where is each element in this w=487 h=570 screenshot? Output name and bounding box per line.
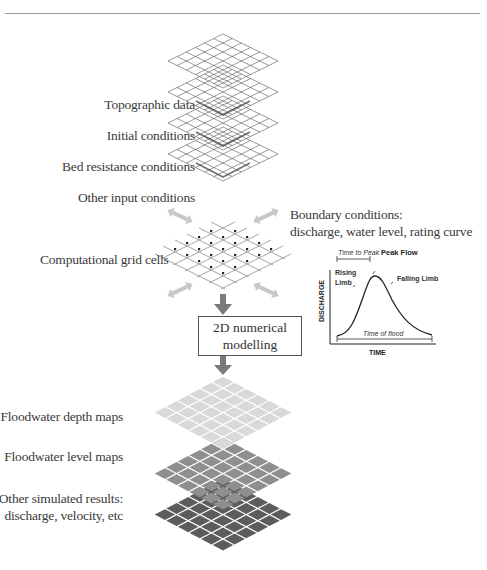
- computational-grid-graphic: [155, 222, 291, 289]
- other-results-line1: Other simulated results:: [0, 490, 123, 507]
- label-depth-maps: Floodwater depth maps: [0, 409, 123, 425]
- svg-text:Rising: Rising: [335, 269, 356, 277]
- double-arrow-icon: [165, 206, 195, 227]
- label-level-maps: Floodwater level maps: [4, 449, 123, 465]
- output-grid-stack: [155, 377, 292, 551]
- svg-text:Time to Peak: Time to Peak: [338, 249, 380, 256]
- svg-text:Time of flood: Time of flood: [363, 330, 405, 337]
- box-line2: modelling: [199, 336, 301, 353]
- boundary-flow-arrows: [165, 206, 281, 301]
- label-topographic-data: Topographic data: [104, 97, 195, 113]
- double-arrow-icon: [251, 280, 281, 301]
- topographic-grid: [168, 34, 278, 88]
- label-other-input: Other input conditions: [78, 190, 195, 206]
- box-line1: 2D numerical: [199, 319, 301, 336]
- hydrograph-chart: Time to Peak Peak Flow Rising Limb Falli…: [318, 248, 438, 356]
- other-results-line2: discharge, velocity, etc: [0, 507, 123, 524]
- svg-text:Falling Limb: Falling Limb: [397, 275, 438, 283]
- svg-text:Limb: Limb: [335, 279, 352, 286]
- down-arrow-icon: [214, 294, 232, 315]
- boundary-conditions-title: Boundary conditions: discharge, water le…: [290, 206, 472, 240]
- double-arrow-icon: [165, 280, 195, 301]
- svg-text:Peak Flow: Peak Flow: [381, 248, 418, 257]
- double-arrow-icon: [251, 206, 281, 227]
- label-other-results: Other simulated results: discharge, velo…: [0, 490, 123, 524]
- label-computational-grid: Computational grid cells: [40, 252, 169, 268]
- label-initial-conditions: Initial conditions: [107, 128, 195, 144]
- diagram-graphics: Time to Peak Peak Flow Rising Limb Falli…: [0, 0, 487, 570]
- boundary-title-line2: discharge, water level, rating curve: [290, 223, 472, 240]
- numerical-modelling-box: 2D numerical modelling: [198, 316, 302, 356]
- boundary-title-line1: Boundary conditions:: [290, 206, 472, 223]
- down-arrow-icon: [214, 356, 232, 375]
- svg-text:TIME: TIME: [369, 349, 386, 356]
- svg-text:DISCHARGE: DISCHARGE: [318, 280, 325, 322]
- label-bed-resistance: Bed resistance conditions: [62, 159, 195, 175]
- depth-maps-grid: [155, 377, 292, 449]
